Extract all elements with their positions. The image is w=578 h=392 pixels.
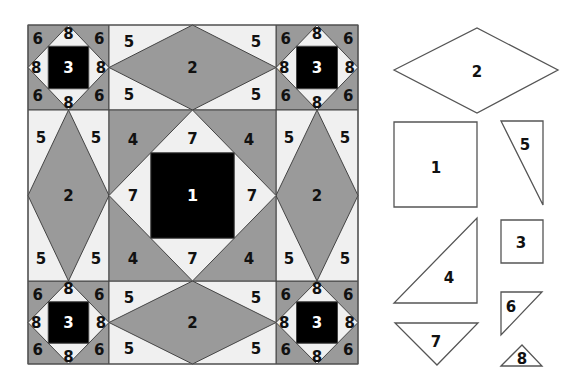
label-triangle-7: 7 (247, 187, 257, 205)
label-triangle-6: 6 (94, 341, 104, 359)
label-triangle-5: 5 (124, 289, 134, 307)
label-triangle-6: 6 (343, 286, 353, 304)
template-label-5: 5 (520, 136, 530, 154)
label-triangle-8: 8 (63, 280, 73, 298)
template-label-1: 1 (431, 159, 441, 177)
label-diamond-2: 2 (312, 187, 322, 205)
center-unit: 177774444 (109, 110, 276, 281)
template-label-6: 6 (506, 298, 516, 316)
label-square-3: 3 (63, 314, 73, 332)
label-triangle-6: 6 (94, 87, 104, 105)
corner-unit-top-right: 366668888 (276, 25, 358, 113)
label-triangle-4: 4 (244, 250, 254, 268)
side-unit-left: 25555 (28, 110, 109, 281)
template-label-2: 2 (472, 63, 482, 81)
label-triangle-5: 5 (251, 289, 261, 307)
label-triangle-8: 8 (279, 314, 289, 332)
label-triangle-6: 6 (94, 30, 104, 48)
label-triangle-7: 7 (128, 187, 138, 205)
label-triangle-5: 5 (340, 250, 350, 268)
label-triangle-6: 6 (281, 286, 291, 304)
template-piece-6: 6 (501, 292, 542, 335)
corner-unit-top-left: 366668888 (28, 25, 109, 113)
label-triangle-5: 5 (284, 250, 294, 268)
label-triangle-5: 5 (91, 250, 101, 268)
label-triangle-8: 8 (345, 59, 355, 77)
label-triangle-4: 4 (128, 250, 138, 268)
label-triangle-6: 6 (343, 341, 353, 359)
triangle-outline (394, 218, 477, 303)
label-diamond-2: 2 (187, 314, 197, 332)
label-triangle-6: 6 (94, 286, 104, 304)
label-diamond-2: 2 (187, 59, 197, 77)
side-unit-bottom: 25555 (109, 281, 276, 364)
template-label-8: 8 (517, 350, 527, 368)
template-label-4: 4 (444, 269, 454, 287)
label-diamond-2: 2 (63, 187, 73, 205)
label-triangle-5: 5 (36, 129, 46, 147)
side-unit-right: 25555 (276, 110, 358, 281)
template-piece-1: 1 (394, 122, 477, 207)
quilt-diagram: 3666688883666688883666688883666688882555… (0, 0, 578, 392)
label-triangle-6: 6 (33, 87, 43, 105)
label-triangle-6: 6 (33, 341, 43, 359)
label-triangle-5: 5 (251, 33, 261, 51)
label-triangle-5: 5 (251, 340, 261, 358)
template-piece-7: 7 (395, 323, 478, 365)
label-triangle-5: 5 (36, 250, 46, 268)
template-label-7: 7 (431, 333, 441, 351)
template-piece-4: 4 (394, 218, 477, 303)
template-piece-8: 8 (501, 345, 542, 368)
label-square-3: 3 (63, 59, 73, 77)
label-triangle-6: 6 (281, 30, 291, 48)
label-triangle-8: 8 (31, 314, 41, 332)
template-piece-3: 3 (501, 220, 543, 263)
label-triangle-8: 8 (96, 59, 106, 77)
label-triangle-6: 6 (33, 30, 43, 48)
label-triangle-8: 8 (345, 314, 355, 332)
corner-unit-bottom-left: 366668888 (28, 280, 109, 366)
label-triangle-7: 7 (187, 130, 197, 148)
label-triangle-5: 5 (251, 86, 261, 104)
label-triangle-7: 7 (187, 250, 197, 268)
label-triangle-4: 4 (128, 131, 138, 149)
label-square-3: 3 (312, 59, 322, 77)
label-triangle-8: 8 (63, 25, 73, 43)
label-triangle-8: 8 (279, 59, 289, 77)
label-triangle-5: 5 (124, 86, 134, 104)
quilt-block: 3666688883666688883666688883666688882555… (28, 25, 358, 367)
label-triangle-5: 5 (124, 33, 134, 51)
template-label-3: 3 (516, 234, 526, 252)
label-square-3: 3 (312, 314, 322, 332)
label-triangle-5: 5 (91, 129, 101, 147)
label-triangle-5: 5 (284, 129, 294, 147)
label-triangle-6: 6 (343, 87, 353, 105)
label-triangle-6: 6 (343, 30, 353, 48)
label-triangle-8: 8 (312, 25, 322, 43)
label-triangle-8: 8 (31, 59, 41, 77)
corner-unit-bottom-right: 366668888 (276, 280, 358, 366)
label-triangle-8: 8 (312, 280, 322, 298)
label-triangle-4: 4 (244, 131, 254, 149)
side-unit-top: 25555 (109, 25, 276, 110)
label-triangle-6: 6 (281, 87, 291, 105)
template-pieces: 21543768 (394, 28, 558, 368)
template-piece-2: 2 (394, 28, 558, 113)
label-triangle-5: 5 (124, 340, 134, 358)
label-triangle-6: 6 (281, 341, 291, 359)
template-piece-5: 5 (501, 121, 543, 205)
triangle-outline (501, 121, 543, 205)
label-triangle-8: 8 (96, 314, 106, 332)
label-square-1: 1 (187, 186, 198, 205)
label-triangle-6: 6 (33, 286, 43, 304)
label-triangle-5: 5 (340, 129, 350, 147)
